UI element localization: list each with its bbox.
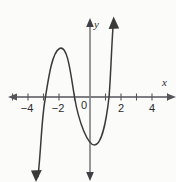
x-axis-right-arrow-icon (167, 93, 176, 100)
x-tick-label-4: 4 (144, 103, 160, 114)
curve-right-branch-arrow-icon (109, 17, 120, 30)
coordinate-plane (0, 0, 176, 182)
y-axis-down-arrow-icon (86, 172, 94, 181)
curve-left-branch-arrow-icon (31, 170, 42, 182)
x-tick-label-minus-4: −4 (17, 103, 37, 114)
x-tick-label-2: 2 (113, 103, 129, 114)
y-axis-up-arrow-icon (86, 18, 94, 27)
y-axis-label: y (94, 19, 99, 30)
x-axis-label: x (162, 77, 167, 88)
x-tick-label-minus-2: −2 (48, 103, 68, 114)
x-tick-label-zero: 0 (77, 100, 91, 111)
cubic-curve (38, 28, 113, 177)
graph-figure: y x −4 −2 0 2 4 (0, 0, 176, 182)
